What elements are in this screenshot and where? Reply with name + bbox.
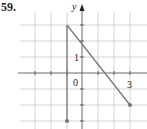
grid <box>20 12 147 129</box>
y-tick-label: 1 <box>74 52 79 63</box>
x-tick-label: 3 <box>127 79 132 90</box>
axes <box>18 6 147 129</box>
sloped-segment <box>67 25 130 105</box>
origin-label: 0 <box>73 77 78 88</box>
graph: y 1 0 3 <box>0 0 147 129</box>
endpoint-dot <box>65 119 69 123</box>
endpoint-dot <box>128 103 132 107</box>
y-axis-label: y <box>71 1 77 12</box>
y-axis-arrow-icon <box>80 4 85 11</box>
